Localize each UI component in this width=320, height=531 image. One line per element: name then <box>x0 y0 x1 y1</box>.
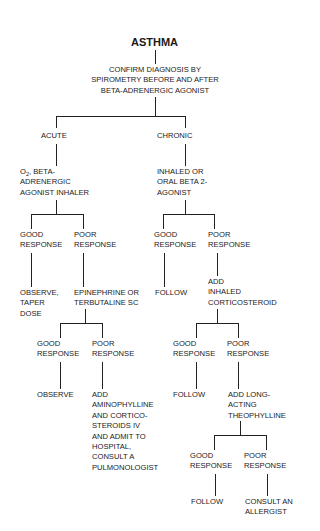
connector <box>240 421 241 435</box>
connector <box>102 323 103 338</box>
chronic-final-poor-response: POOR RESPONSE <box>244 451 286 472</box>
chronic-poor-good-response: GOOD RESPONSE <box>173 339 215 360</box>
acute-good-response: GOOD RESPONSE <box>20 230 62 251</box>
chronic-final-poor-action: CONSULT AN ALLERGIST <box>245 497 293 518</box>
chronic-node: CHRONIC <box>157 131 192 141</box>
acute-poor-poor-action: ADD AMINOPHYLLINE AND CORTICO- STEROIDS … <box>92 390 158 473</box>
connector <box>163 214 215 215</box>
chronic-final-good-action: FOLLOW <box>191 497 223 507</box>
connector <box>217 309 218 323</box>
acute-poor-poor-response: POOR RESPONSE <box>92 339 134 360</box>
connector <box>155 50 156 64</box>
acute-poor-action: EPINEPHRINE OR TERBUTALINE SC <box>74 288 139 309</box>
chronic-poor-poor-response: POOR RESPONSE <box>227 339 269 360</box>
connector <box>83 214 84 229</box>
connector <box>214 214 215 229</box>
connector <box>56 144 57 166</box>
connector <box>214 435 267 436</box>
connector <box>85 309 86 323</box>
connector <box>56 200 57 214</box>
connector <box>267 474 268 496</box>
chronic-final-good-response: GOOD RESPONSE <box>190 451 232 472</box>
connector <box>185 144 186 166</box>
connector <box>266 435 267 450</box>
connector <box>185 116 186 128</box>
connector <box>31 214 84 215</box>
connector <box>196 362 197 389</box>
chronic-poor-poor-action: ADD LONG- ACTING THEOPHYLLINE <box>228 390 286 421</box>
chart-title: ASTHMA <box>131 36 178 49</box>
chronic-poor-good-action: FOLLOW <box>173 390 205 400</box>
connector <box>60 362 61 389</box>
connector <box>56 116 57 128</box>
connector <box>163 214 164 229</box>
connector <box>31 214 32 229</box>
connector <box>60 323 103 324</box>
acute-node: ACUTE <box>41 131 67 141</box>
chronic-poor-response: POOR RESPONSE <box>208 230 250 251</box>
acute-poor-response: POOR RESPONSE <box>74 230 116 251</box>
acute-good-action: OBSERVE, TAPER DOSE <box>20 288 59 319</box>
chronic-good-action: FOLLOW <box>155 288 187 298</box>
connector <box>196 323 197 338</box>
connector <box>214 435 215 450</box>
acute-treatment-node: O2, BETA- ADRENERGIC AGONIST INHALER <box>20 167 89 198</box>
connector <box>185 200 186 214</box>
connector <box>31 253 32 287</box>
connector <box>238 323 239 338</box>
connector <box>102 362 103 389</box>
connector <box>215 474 216 496</box>
acute-poor-good-action: OBSERVE <box>37 390 74 400</box>
chronic-treatment-node: INHALED OR ORAL BETA 2- AGONIST <box>157 167 207 198</box>
connector <box>60 323 61 338</box>
connector <box>238 362 239 389</box>
connector <box>56 116 186 117</box>
connector <box>196 323 239 324</box>
chronic-poor-action: ADD INHALED CORTICOSTEROID <box>208 277 277 308</box>
connector <box>83 253 84 287</box>
connector <box>217 253 218 276</box>
connector <box>155 97 156 116</box>
root-node: CONFIRM DIAGNOSIS BY SPIROMETRY BEFORE A… <box>80 65 230 96</box>
chronic-good-response: GOOD RESPONSE <box>154 230 196 251</box>
acute-poor-good-response: GOOD RESPONSE <box>37 339 79 360</box>
acute-treatment-text: , BETA- ADRENERGIC AGONIST INHALER <box>20 167 89 197</box>
connector <box>164 253 165 287</box>
